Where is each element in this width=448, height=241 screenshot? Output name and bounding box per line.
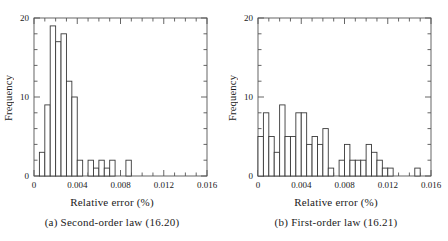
histogram-bar bbox=[372, 152, 377, 176]
chart-panel-b: 00.0040.0080.0120.01601020 Frequency Rel… bbox=[224, 0, 448, 241]
histogram-bar bbox=[50, 26, 55, 176]
y-tick-label: 0 bbox=[25, 171, 30, 181]
x-tick-label: 0.008 bbox=[110, 180, 131, 190]
histogram-bar bbox=[317, 144, 322, 176]
x-tick-label: 0 bbox=[32, 180, 37, 190]
histogram-bar bbox=[269, 137, 274, 177]
panel-caption-b: (b) First-order law (16.21) bbox=[224, 216, 448, 228]
x-axis-label-b: Relative error (%) bbox=[224, 196, 448, 208]
histogram-bar bbox=[93, 168, 98, 176]
y-axis-label-a: Frequency bbox=[2, 46, 16, 150]
histogram-bar bbox=[61, 34, 66, 176]
histogram-bar bbox=[280, 105, 285, 176]
y-tick-label: 20 bbox=[244, 13, 254, 23]
histogram-bar bbox=[366, 144, 371, 176]
histogram-bar bbox=[39, 152, 44, 176]
x-tick-label: 0.004 bbox=[67, 180, 88, 190]
histogram-plot-a: 00.0040.0080.0120.01601020 bbox=[0, 0, 224, 196]
histogram-bar bbox=[56, 42, 61, 176]
histogram-bar bbox=[45, 105, 50, 176]
histogram-bar bbox=[415, 168, 420, 176]
panel-caption-a: (a) Second-order law (16.20) bbox=[0, 216, 224, 228]
histogram-bar bbox=[328, 168, 333, 176]
histogram-bar bbox=[377, 160, 382, 176]
histogram-bar bbox=[290, 137, 295, 177]
x-tick-label: 0.016 bbox=[197, 180, 218, 190]
histogram-bar bbox=[312, 137, 317, 177]
histogram-bar bbox=[126, 160, 131, 176]
y-tick-label: 10 bbox=[244, 92, 254, 102]
histogram-bar bbox=[88, 160, 93, 176]
x-tick-label: 0.012 bbox=[378, 180, 398, 190]
x-tick-label: 0.012 bbox=[154, 180, 174, 190]
histogram-bar bbox=[301, 113, 306, 176]
histogram-bar bbox=[110, 160, 115, 176]
y-tick-label: 20 bbox=[20, 13, 30, 23]
histogram-bar bbox=[361, 160, 366, 176]
histogram-plot-b: 00.0040.0080.0120.01601020 bbox=[224, 0, 448, 196]
histogram-bar bbox=[104, 168, 109, 176]
histogram-bar bbox=[350, 160, 355, 176]
y-axis-label-b: Frequency bbox=[226, 46, 240, 150]
x-tick-label: 0.016 bbox=[421, 180, 442, 190]
histogram-bar bbox=[296, 113, 301, 176]
histogram-bar bbox=[323, 129, 328, 176]
histogram-bar bbox=[307, 144, 312, 176]
y-tick-label: 10 bbox=[20, 92, 30, 102]
histogram-bar bbox=[72, 97, 77, 176]
histogram-bar bbox=[345, 144, 350, 176]
y-tick-label: 0 bbox=[249, 171, 254, 181]
histogram-bar bbox=[77, 160, 82, 176]
figure-container: 00.0040.0080.0120.01601020 Frequency Rel… bbox=[0, 0, 448, 241]
histogram-bar bbox=[388, 168, 393, 176]
x-tick-label: 0.008 bbox=[334, 180, 355, 190]
histogram-bar bbox=[382, 168, 387, 176]
histogram-bar bbox=[258, 137, 263, 177]
histogram-bar bbox=[285, 137, 290, 177]
chart-panel-a: 00.0040.0080.0120.01601020 Frequency Rel… bbox=[0, 0, 224, 241]
histogram-bar bbox=[66, 81, 71, 176]
x-axis-label-a: Relative error (%) bbox=[0, 196, 224, 208]
x-tick-label: 0 bbox=[256, 180, 261, 190]
histogram-bar bbox=[263, 113, 268, 176]
histogram-bar bbox=[274, 152, 279, 176]
x-tick-label: 0.004 bbox=[291, 180, 312, 190]
histogram-bar bbox=[355, 160, 360, 176]
histogram-bar bbox=[339, 160, 344, 176]
histogram-bar bbox=[99, 160, 104, 176]
